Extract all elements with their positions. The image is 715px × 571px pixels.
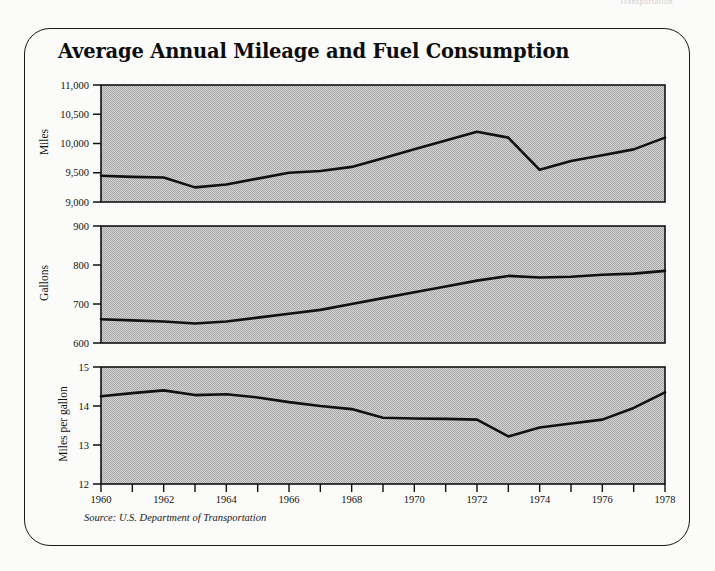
x-tick-label: 1960 [76,494,126,505]
cut-off-header-text: Transportation [619,0,673,6]
x-tick-label: 1962 [139,494,189,505]
x-tick-label: 1974 [515,494,565,505]
x-tick-label: 1978 [640,494,690,505]
y-axis-title-miles-per-gallon: Miles per gallon [57,354,69,494]
x-tick-label: 1964 [201,494,251,505]
x-tick-label: 1966 [264,494,314,505]
source-note: Source: U.S. Department of Transportatio… [84,512,266,523]
x-tick-label: 1976 [577,494,627,505]
chart-page: Transportation Average Annual Mileage an… [0,0,715,571]
y-axis-title-gallons: Gallons [38,247,50,319]
chart-frame-border [24,28,690,546]
y-axis-title-miles: Miles [38,112,50,172]
page-title: Average Annual Mileage and Fuel Consumpt… [58,40,569,63]
x-tick-label: 1970 [389,494,439,505]
x-tick-label: 1972 [452,494,502,505]
x-tick-label: 1968 [327,494,377,505]
